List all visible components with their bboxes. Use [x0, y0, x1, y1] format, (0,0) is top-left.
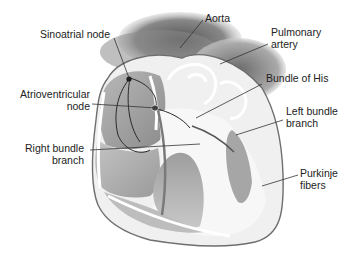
label-aorta: Aorta	[205, 13, 230, 25]
label-right-bundle-branch: Right bundle branch	[18, 143, 84, 166]
right-bundle-branch-text-line2: branch	[18, 155, 84, 167]
atrioventricular-node-text-line2: node	[18, 101, 90, 113]
purkinje-fibers-text-line2: fibers	[300, 180, 338, 192]
left-bundle-branch-text-line1: Left bundle	[286, 106, 338, 118]
aorta-text: Aorta	[205, 12, 230, 24]
label-sinoatrial-node: Sinoatrial node	[40, 29, 110, 41]
heart-conduction-diagram: Sinoatrial node Atrioventricular node Ri…	[0, 0, 352, 263]
label-purkinje-fibers: Purkinje fibers	[300, 168, 338, 191]
pulmonary-artery-text-line2: artery	[271, 39, 321, 51]
label-atrioventricular-node: Atrioventricular node	[18, 89, 90, 112]
pulmonary-artery-text-line1: Pulmonary	[271, 27, 321, 39]
right-bundle-branch-text-line1: Right bundle	[18, 143, 84, 155]
bundle-of-his-text: Bundle of His	[266, 72, 328, 84]
label-left-bundle-branch: Left bundle branch	[286, 106, 338, 129]
left-bundle-branch-text-line2: branch	[286, 118, 338, 130]
label-pulmonary-artery: Pulmonary artery	[271, 27, 321, 50]
atrioventricular-node-text-line1: Atrioventricular	[18, 89, 90, 101]
label-bundle-of-his: Bundle of His	[266, 73, 328, 85]
purkinje-fibers-text-line1: Purkinje	[300, 168, 338, 180]
sinoatrial-node-text: Sinoatrial node	[40, 28, 110, 40]
